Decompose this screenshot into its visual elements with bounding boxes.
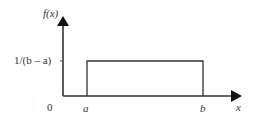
y-axis-label: f(x): [43, 7, 59, 20]
height-label: 1/(b – a): [14, 54, 52, 67]
lower-bound-label: a: [83, 102, 89, 114]
y-axis-arrow-icon: [57, 16, 69, 26]
x-axis-label: x: [235, 101, 241, 113]
uniform-pdf-diagram: f(x) 1/(b – a) 0 a b x: [0, 0, 257, 125]
origin-label: 0: [47, 101, 53, 113]
upper-bound-label: b: [200, 102, 206, 114]
pdf-rectangle: [87, 61, 203, 96]
